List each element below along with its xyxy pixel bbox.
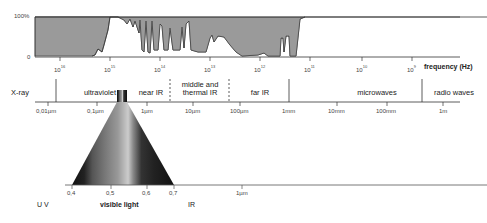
uv-label: U V — [37, 201, 49, 208]
vis-tick-2: 0,6 — [142, 190, 150, 196]
visible-scale: 0,4 0,5 0,6 0,7 1µm U V visible light IR — [0, 190, 487, 223]
ir-label: IR — [188, 201, 195, 208]
vis-tick-4: 1µm — [236, 190, 248, 196]
visible-light-label: visible light — [100, 201, 139, 208]
vis-tick-1: 0,5 — [106, 190, 114, 196]
vis-tick-3: 0,7 — [169, 190, 177, 196]
vis-tick-0: 0,4 — [67, 190, 75, 196]
